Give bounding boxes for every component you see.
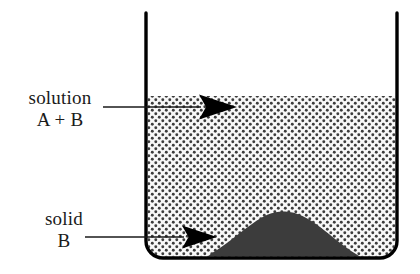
solid-label: solid B bbox=[18, 208, 110, 252]
solution-label-line2: A + B bbox=[8, 109, 112, 131]
solid-label-line2: B bbox=[18, 230, 110, 252]
solution-label-line1: solution bbox=[29, 87, 92, 108]
chemistry-beaker-figure: solution A + B solid B bbox=[0, 0, 420, 274]
solution-region bbox=[140, 96, 404, 264]
solution-label: solution A + B bbox=[8, 87, 112, 131]
solid-label-line1: solid bbox=[45, 208, 83, 229]
